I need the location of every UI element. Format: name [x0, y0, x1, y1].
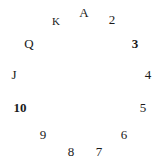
rank-label-8: 8	[68, 145, 75, 158]
rank-label-2: 2	[109, 13, 116, 26]
rank-label-9: 9	[40, 128, 47, 141]
rank-label-k: K	[52, 16, 60, 27]
card-rank-clock-diagram: A2345678910JQK	[0, 0, 162, 168]
rank-label-10: 10	[14, 101, 27, 114]
rank-label-j: J	[11, 68, 16, 81]
rank-label-3: 3	[132, 37, 139, 50]
rank-label-a: A	[79, 6, 88, 19]
rank-label-7: 7	[96, 145, 103, 158]
rank-label-4: 4	[145, 68, 152, 81]
rank-label-5: 5	[140, 101, 147, 114]
rank-label-q: Q	[24, 37, 33, 50]
rank-label-6: 6	[121, 128, 128, 141]
